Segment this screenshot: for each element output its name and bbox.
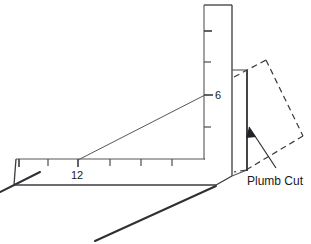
horizontal-arm-ticks bbox=[19, 159, 172, 167]
rafter-edge-bottom-short bbox=[232, 170, 247, 176]
framing-square-diagram: 6 12 Plumb Cut bbox=[0, 0, 311, 244]
rafter-dashed-right-upper bbox=[266, 60, 303, 136]
rafter-bottom-edge bbox=[95, 186, 216, 241]
rafter-stock-lower bbox=[0, 172, 216, 241]
rafter-stock-upper bbox=[232, 60, 303, 176]
diagram-canvas: 6 12 Plumb Cut bbox=[0, 0, 311, 244]
rafter-top-edge-left bbox=[0, 172, 40, 192]
plumb-cut-callout bbox=[246, 127, 276, 168]
framing-square-horizontal-arm bbox=[14, 159, 216, 185]
run-dimension-label: 12 bbox=[71, 169, 83, 181]
plumb-cut-callout-label: Plumb Cut bbox=[247, 174, 304, 188]
horizontal-arm-left-end bbox=[14, 159, 16, 185]
square-outer-corner bbox=[216, 176, 232, 185]
pitch-hypotenuse-line bbox=[78, 95, 205, 160]
rise-dimension-label: 6 bbox=[215, 89, 221, 101]
rafter-dashed-top-left bbox=[234, 60, 266, 77]
vertical-arm-ticks bbox=[204, 31, 213, 127]
